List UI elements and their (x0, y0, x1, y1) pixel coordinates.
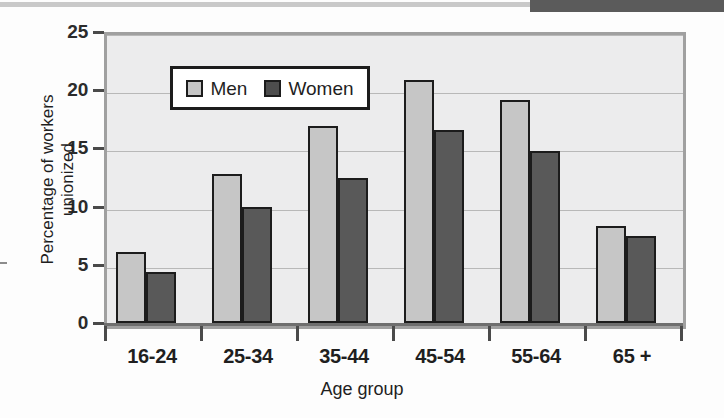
x-axis-label-16-24: 16-24 (104, 346, 200, 366)
legend-entry-men: Men (186, 79, 247, 98)
y-axis-tick-20 (93, 89, 104, 92)
y-axis-tick-25 (93, 31, 104, 34)
x-axis-tick-2 (296, 326, 299, 341)
y-axis-label-25: 25 (67, 22, 88, 41)
x-axis-label-65: 65 + (584, 346, 680, 366)
x-axis-tick-0 (104, 326, 107, 341)
y-axis-title-line-1: Percentage of workers (38, 55, 58, 305)
legend-swatch-men (186, 80, 203, 97)
y-axis-title: Percentage of workers unionized (38, 55, 77, 305)
y-axis-label-5: 5 (78, 255, 88, 274)
x-axis-label-35-44: 35-44 (296, 346, 392, 366)
y-axis-tick-0 (93, 322, 104, 325)
x-axis-tick-4 (488, 326, 491, 341)
y-axis-tick-5 (93, 264, 104, 267)
y-axis-tick-15 (93, 147, 104, 150)
legend-swatch-women (264, 80, 281, 97)
page-canvas: 0510152025 Percentage of workers unioniz… (0, 0, 724, 418)
y-axis-title-line-2: unionized (58, 55, 78, 305)
x-axis-tick-3 (392, 326, 395, 341)
x-axis-label-55-64: 55-64 (488, 346, 584, 366)
bar-chart: 0510152025 Percentage of workers unioniz… (0, 0, 724, 418)
chart-legend: MenWomen (170, 66, 370, 110)
x-axis-tick-1 (200, 326, 203, 341)
x-axis-tick-5 (584, 326, 587, 341)
y-axis-label-0: 0 (78, 313, 88, 332)
x-axis-label-45-54: 45-54 (392, 346, 488, 366)
legend-entry-women: Women (264, 79, 353, 98)
legend-label-women: Women (288, 79, 353, 98)
x-axis-tick-6 (680, 326, 683, 341)
y-axis-tick-10 (93, 206, 104, 209)
x-axis-title: Age group (0, 380, 724, 398)
legend-label-men: Men (210, 79, 247, 98)
x-axis-label-25-34: 25-34 (200, 346, 296, 366)
